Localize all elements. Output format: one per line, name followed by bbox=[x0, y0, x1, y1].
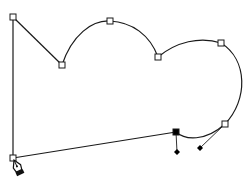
path-segment[interactable] bbox=[158, 40, 221, 57]
anchor-point[interactable] bbox=[107, 18, 113, 24]
control-handles[interactable] bbox=[174, 124, 225, 155]
path-segment[interactable] bbox=[221, 43, 242, 124]
anchor-point[interactable] bbox=[155, 54, 161, 60]
anchor-point[interactable] bbox=[10, 14, 16, 20]
anchor-point[interactable] bbox=[218, 40, 224, 46]
selected-anchor-point[interactable] bbox=[173, 129, 179, 135]
anchor-point[interactable] bbox=[222, 121, 228, 127]
path-segment[interactable] bbox=[13, 17, 62, 65]
path-editing-canvas[interactable] bbox=[0, 0, 250, 182]
anchor-points[interactable] bbox=[10, 14, 228, 161]
anchor-point[interactable] bbox=[59, 62, 65, 68]
path-segment[interactable] bbox=[13, 132, 176, 158]
path-segment[interactable] bbox=[110, 21, 158, 57]
control-handle-point[interactable] bbox=[174, 149, 180, 155]
bezier-path[interactable] bbox=[13, 17, 242, 158]
path-segment[interactable] bbox=[62, 21, 110, 65]
